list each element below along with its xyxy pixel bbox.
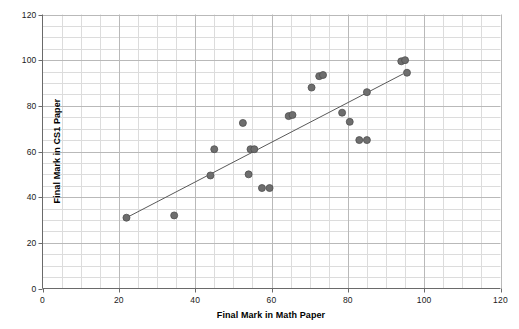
y-tick-label: 100	[21, 55, 37, 65]
trend-line	[126, 74, 403, 218]
axis-ticks	[39, 16, 502, 293]
data-point	[239, 119, 246, 126]
x-tick-label: 0	[40, 295, 45, 305]
data-point	[402, 57, 409, 64]
y-tick-label: 0	[21, 284, 37, 294]
data-point	[211, 146, 218, 153]
data-point	[123, 214, 130, 221]
trend-line-segment	[126, 74, 403, 218]
data-point	[403, 69, 410, 76]
data-point	[363, 137, 370, 144]
minor-gridlines	[43, 15, 501, 289]
data-point	[258, 185, 265, 192]
major-gridlines	[43, 15, 502, 289]
data-point	[251, 146, 258, 153]
data-point	[171, 212, 178, 219]
x-tick-label: 100	[417, 295, 432, 305]
data-point	[320, 72, 327, 79]
data-point	[245, 171, 252, 178]
y-tick-label: 20	[21, 238, 37, 248]
plot-canvas	[0, 0, 519, 329]
data-point	[339, 109, 346, 116]
x-tick-label: 120	[493, 295, 508, 305]
scatter-chart: 020406080100120 020406080100120 Final Ma…	[0, 0, 519, 329]
y-tick-label: 80	[21, 101, 37, 111]
axis-lines	[43, 15, 501, 289]
data-point	[207, 172, 214, 179]
y-tick-label: 40	[21, 192, 37, 202]
y-axis-title: Final Mark in CS1 Paper	[52, 99, 62, 204]
data-point	[308, 84, 315, 91]
data-point	[289, 111, 296, 118]
data-point	[356, 137, 363, 144]
x-tick-label: 40	[190, 295, 200, 305]
data-point	[346, 118, 353, 125]
data-point	[363, 89, 370, 96]
data-point	[266, 185, 273, 192]
x-axis-title: Final Mark in Math Paper	[217, 310, 325, 320]
y-tick-label: 60	[21, 147, 37, 157]
x-tick-label: 20	[114, 295, 124, 305]
x-tick-label: 80	[343, 295, 353, 305]
x-tick-label: 60	[267, 295, 277, 305]
y-tick-label: 120	[21, 10, 37, 20]
